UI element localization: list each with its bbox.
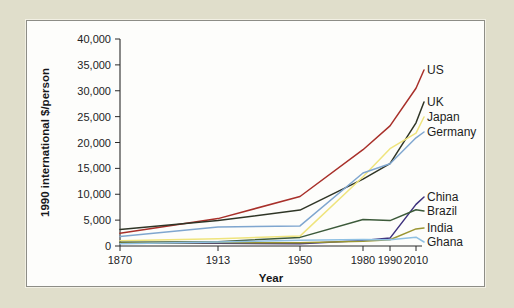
y-tick-label: 25,000 — [77, 111, 111, 123]
y-tick-label: 5,000 — [83, 214, 111, 226]
x-tick-label: 1913 — [206, 254, 230, 266]
series-label-brazil: Brazil — [427, 204, 457, 218]
series-label-germany: Germany — [427, 125, 476, 139]
x-tick-label: 1990 — [378, 254, 402, 266]
y-tick-label: 35,000 — [77, 59, 111, 71]
x-tick-label: 1950 — [288, 254, 312, 266]
y-tick-label: 0 — [105, 240, 111, 252]
x-tick-label: 1870 — [108, 254, 132, 266]
series-line-us — [120, 70, 424, 233]
series-label-uk: UK — [427, 95, 444, 109]
series-label-china: China — [427, 190, 459, 204]
series-label-us: US — [427, 63, 444, 77]
x-tick-label: 2010 — [404, 254, 428, 266]
series-line-uk — [120, 102, 424, 230]
y-tick-label: 40,000 — [77, 33, 111, 45]
y-tick-label: 15,000 — [77, 162, 111, 174]
y-axis-title: 1990 international $/person — [39, 68, 51, 217]
y-tick-label: 10,000 — [77, 188, 111, 200]
line-chart: 05,00010,00015,00020,00025,00030,00035,0… — [27, 21, 484, 286]
y-tick-label: 30,000 — [77, 85, 111, 97]
x-axis-title: Year — [259, 272, 284, 284]
series-label-ghana: Ghana — [427, 235, 463, 249]
y-tick-label: 20,000 — [77, 137, 111, 149]
x-tick-label: 1980 — [351, 254, 375, 266]
series-label-japan: Japan — [427, 110, 460, 124]
series-label-india: India — [427, 221, 453, 235]
chart-panel: 05,00010,00015,00020,00025,00030,00035,0… — [26, 20, 485, 287]
figure-root: 05,00010,00015,00020,00025,00030,00035,0… — [0, 0, 514, 308]
